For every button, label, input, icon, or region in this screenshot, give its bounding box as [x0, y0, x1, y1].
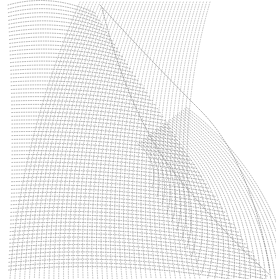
abstract-dotted-wave-graphic — [0, 0, 276, 279]
dotted-wave-mesh — [0, 0, 276, 279]
